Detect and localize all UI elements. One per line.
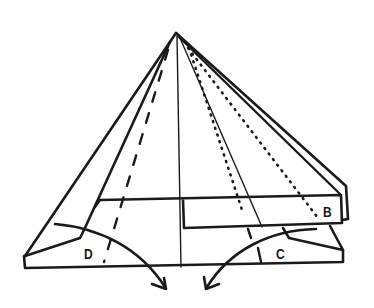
bottom-strip — [24, 250, 343, 268]
hidden-line-dotted-outer — [188, 48, 318, 218]
center-line — [177, 36, 181, 267]
tick-c-mid — [258, 248, 261, 262]
valley-fold-dashed — [104, 50, 168, 262]
fold-arrow-d — [55, 224, 165, 287]
strip-b — [100, 195, 342, 228]
right-inner-edge — [178, 36, 340, 194]
tick-c-left — [248, 229, 251, 238]
left-outer-edge — [25, 33, 176, 256]
diagram-drawing — [0, 0, 374, 308]
right-outer-edge — [176, 33, 348, 220]
origami-diagram: B C D — [0, 0, 374, 308]
label-c: C — [276, 246, 285, 261]
label-d: D — [84, 246, 93, 261]
label-b: B — [323, 204, 332, 219]
fold-arrow-c — [207, 229, 316, 287]
